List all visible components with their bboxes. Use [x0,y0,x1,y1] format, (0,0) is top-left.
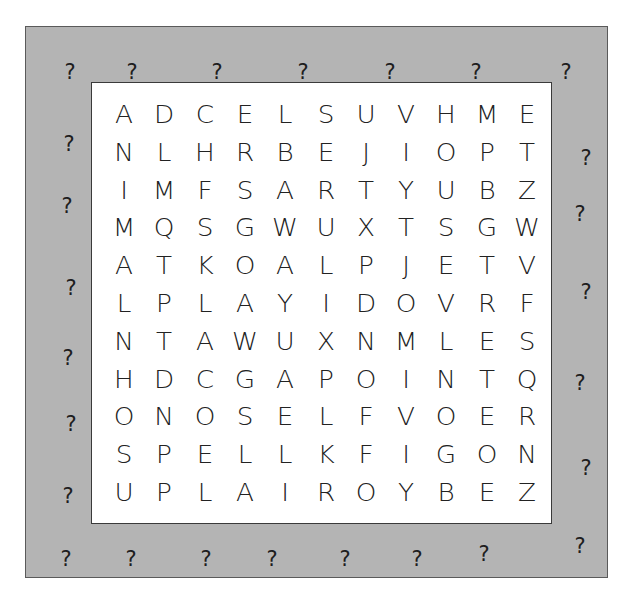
letter-cell[interactable]: Y [385,474,427,512]
letter-cell[interactable]: Q [143,209,185,247]
letter-cell[interactable]: L [264,96,306,134]
letter-cell[interactable]: E [466,398,508,436]
letter-cell[interactable]: F [345,436,387,474]
letter-cell[interactable]: U [345,96,387,134]
letter-cell[interactable]: S [184,209,226,247]
letter-cell[interactable]: D [143,96,185,134]
letter-cell[interactable]: L [264,436,306,474]
letter-cell[interactable]: A [264,247,306,285]
letter-cell[interactable]: S [425,209,467,247]
letter-cell[interactable]: L [184,474,226,512]
letter-cell[interactable]: A [103,96,145,134]
letter-cell[interactable]: U [425,172,467,210]
letter-cell[interactable]: V [385,96,427,134]
letter-cell[interactable]: P [143,285,185,323]
letter-cell[interactable]: F [345,398,387,436]
letter-cell[interactable]: T [466,361,508,399]
letter-cell[interactable]: O [466,436,508,474]
letter-cell[interactable]: I [385,436,427,474]
letter-cell[interactable]: U [103,474,145,512]
letter-cell[interactable]: O [345,361,387,399]
letter-cell[interactable]: G [425,436,467,474]
letter-cell[interactable]: X [305,323,347,361]
letter-cell[interactable]: V [385,398,427,436]
letter-cell[interactable]: E [466,323,508,361]
letter-cell[interactable]: R [466,285,508,323]
letter-cell[interactable]: L [184,285,226,323]
letter-cell[interactable]: I [385,361,427,399]
letter-cell[interactable]: C [184,361,226,399]
letter-cell[interactable]: T [506,134,548,172]
letter-cell[interactable]: L [425,323,467,361]
letter-cell[interactable]: N [103,134,145,172]
letter-cell[interactable]: R [506,398,548,436]
letter-cell[interactable]: S [103,436,145,474]
letter-cell[interactable]: L [305,247,347,285]
letter-cell[interactable]: A [103,247,145,285]
letter-cell[interactable]: N [345,323,387,361]
letter-cell[interactable]: X [345,209,387,247]
letter-cell[interactable]: O [385,285,427,323]
letter-cell[interactable]: R [305,474,347,512]
letter-cell[interactable]: A [184,323,226,361]
letter-cell[interactable]: S [506,323,548,361]
letter-cell[interactable]: P [466,134,508,172]
letter-cell[interactable]: J [345,134,387,172]
letter-cell[interactable]: T [143,323,185,361]
letter-cell[interactable]: B [466,172,508,210]
letter-cell[interactable]: O [224,247,266,285]
letter-cell[interactable]: A [264,172,306,210]
letter-cell[interactable]: V [506,247,548,285]
letter-cell[interactable]: D [143,361,185,399]
letter-cell[interactable]: I [385,134,427,172]
letter-cell[interactable]: W [264,209,306,247]
letter-cell[interactable]: G [224,361,266,399]
letter-cell[interactable]: T [385,209,427,247]
letter-cell[interactable]: O [345,474,387,512]
letter-cell[interactable]: E [264,398,306,436]
letter-cell[interactable]: O [425,398,467,436]
letter-cell[interactable]: Y [264,285,306,323]
letter-cell[interactable]: Z [506,474,548,512]
letter-cell[interactable]: T [466,247,508,285]
letter-cell[interactable]: N [506,436,548,474]
letter-cell[interactable]: I [264,474,306,512]
letter-cell[interactable]: O [103,398,145,436]
letter-cell[interactable]: K [184,247,226,285]
letter-cell[interactable]: Z [506,172,548,210]
letter-cell[interactable]: U [305,209,347,247]
letter-cell[interactable]: E [506,96,548,134]
letter-cell[interactable]: S [305,96,347,134]
letter-cell[interactable]: A [224,285,266,323]
letter-cell[interactable]: L [103,285,145,323]
letter-cell[interactable]: P [305,361,347,399]
letter-cell[interactable]: F [506,285,548,323]
letter-cell[interactable]: O [184,398,226,436]
letter-cell[interactable]: I [305,285,347,323]
letter-cell[interactable]: T [143,247,185,285]
letter-cell[interactable]: B [264,134,306,172]
letter-cell[interactable]: J [385,247,427,285]
letter-cell[interactable]: A [264,361,306,399]
letter-cell[interactable]: W [224,323,266,361]
letter-cell[interactable]: U [264,323,306,361]
letter-cell[interactable]: G [466,209,508,247]
letter-cell[interactable]: N [103,323,145,361]
letter-cell[interactable]: N [425,361,467,399]
letter-cell[interactable]: M [103,209,145,247]
letter-cell[interactable]: Y [385,172,427,210]
letter-cell[interactable]: E [224,96,266,134]
letter-cell[interactable]: T [345,172,387,210]
letter-cell[interactable]: E [425,247,467,285]
letter-cell[interactable]: G [224,209,266,247]
letter-cell[interactable]: P [143,436,185,474]
letter-cell[interactable]: P [345,247,387,285]
letter-cell[interactable]: L [143,134,185,172]
letter-cell[interactable]: C [184,96,226,134]
letter-cell[interactable]: S [224,172,266,210]
letter-cell[interactable]: V [425,285,467,323]
letter-cell[interactable]: E [305,134,347,172]
letter-cell[interactable]: S [224,398,266,436]
letter-cell[interactable]: K [305,436,347,474]
letter-cell[interactable]: P [143,474,185,512]
